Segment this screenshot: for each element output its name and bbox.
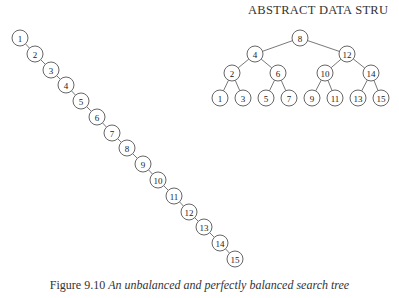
node-label: 9: [141, 160, 146, 170]
tree-node: 7: [104, 125, 120, 141]
tree-node: 15: [373, 90, 389, 106]
node-label: 2: [230, 69, 235, 79]
caption-label: Figure 9.10: [50, 278, 105, 292]
tree-edge: [102, 123, 106, 127]
tree-node: 13: [196, 219, 212, 235]
node-label: 3: [49, 66, 54, 76]
node-label: 6: [95, 113, 100, 123]
node-label: 1: [218, 94, 223, 104]
tree-edge: [195, 218, 199, 222]
tree-edge: [164, 186, 169, 191]
tree-node: 10: [317, 65, 333, 81]
tree-node: 10: [150, 172, 166, 188]
tree-node: 14: [212, 235, 228, 251]
node-label: 8: [298, 34, 303, 44]
node-label: 5: [79, 97, 84, 107]
node-label: 15: [231, 255, 241, 265]
node-label: 4: [64, 81, 69, 91]
tree-node: 8: [292, 30, 308, 46]
tree-edge: [331, 59, 341, 68]
node-label: 14: [367, 69, 377, 79]
tree-edge: [87, 107, 92, 112]
tree-edge: [238, 59, 249, 68]
search-tree-figure: 123456789101112131415 841226101413579111…: [0, 0, 399, 298]
tree-node: 1: [12, 30, 28, 46]
node-label: 5: [264, 94, 269, 104]
caption-text: An unbalanced and perfectly balanced sea…: [108, 278, 349, 292]
tree-edge: [118, 139, 122, 143]
node-label: 12: [343, 50, 352, 60]
node-label: 9: [310, 94, 315, 104]
tree-node: 9: [135, 156, 151, 172]
node-label: 3: [241, 94, 246, 104]
tree-node: 11: [166, 188, 182, 204]
node-label: 13: [354, 94, 364, 104]
tree-edge: [374, 80, 378, 90]
tree-node: 5: [258, 90, 274, 106]
tree-edge: [362, 80, 368, 91]
tree-edge: [57, 76, 61, 80]
node-label: 7: [287, 94, 292, 104]
tree-node: 6: [89, 109, 105, 125]
node-label: 15: [377, 94, 387, 104]
tree-edge: [281, 80, 286, 90]
node-label: 14: [216, 239, 226, 249]
figure-caption: Figure 9.10 An unbalanced and perfectly …: [0, 278, 399, 293]
node-label: 4: [253, 50, 258, 60]
tree-edge: [316, 80, 322, 91]
tree-node: 11: [327, 90, 343, 106]
tree-node: 9: [304, 90, 320, 106]
node-label: 7: [110, 129, 115, 139]
tree-node: 4: [247, 46, 263, 62]
tree-edge: [223, 80, 228, 91]
tree-edge: [71, 91, 75, 95]
tree-node: 13: [350, 90, 366, 106]
tree-edge: [25, 44, 29, 48]
node-label: 13: [200, 223, 210, 233]
node-label: 10: [154, 176, 164, 186]
tree-node: 14: [363, 65, 379, 81]
tree-edge: [225, 249, 229, 253]
tree-node: 1: [212, 90, 228, 106]
tree-edge: [41, 60, 46, 65]
balanced-tree: 841226101413579111315: [212, 30, 389, 106]
tree-node: 4: [58, 77, 74, 93]
node-label: 8: [125, 144, 130, 154]
tree-node: 15: [227, 251, 243, 267]
node-label: 10: [321, 69, 331, 79]
tree-node: 3: [235, 90, 251, 106]
tree-node: 7: [281, 90, 297, 106]
node-label: 2: [33, 50, 38, 60]
tree-edge: [269, 80, 274, 91]
node-label: 12: [185, 208, 194, 218]
tree-node: 6: [270, 65, 286, 81]
node-label: 1: [18, 34, 23, 44]
tree-node: 2: [27, 46, 43, 62]
tree-edge: [148, 170, 152, 174]
tree-node: 12: [339, 46, 355, 62]
tree-edge: [308, 41, 340, 52]
tree-edge: [263, 41, 293, 52]
tree-node: 5: [73, 93, 89, 109]
node-label: 11: [331, 94, 340, 104]
tree-edge: [133, 154, 138, 159]
tree-node: 12: [181, 204, 197, 220]
node-label: 6: [276, 69, 281, 79]
node-label: 11: [170, 192, 179, 202]
tree-edge: [261, 59, 272, 68]
tree-edge: [210, 233, 215, 238]
tree-edge: [179, 202, 183, 206]
tree-node: 2: [224, 65, 240, 81]
unbalanced-tree: 123456789101112131415: [12, 30, 243, 267]
tree-node: 8: [119, 140, 135, 156]
tree-node: 3: [43, 62, 59, 78]
tree-edge: [328, 80, 332, 90]
tree-edge: [235, 80, 240, 90]
tree-edge: [353, 59, 364, 68]
